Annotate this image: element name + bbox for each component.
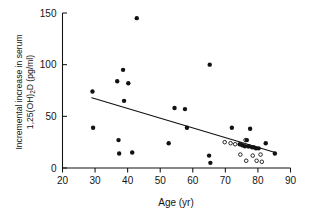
data-point-filled-16: [208, 161, 212, 165]
y-axis-title-prefix: 1,25(OH): [25, 94, 35, 129]
x-tick-label-70: 70: [220, 175, 232, 186]
data-point-filled-21: [245, 138, 249, 142]
data-point-filled-27: [256, 146, 260, 150]
y-tick-label-150: 150: [40, 8, 57, 19]
data-point-filled-28: [264, 141, 268, 145]
data-point-filled-9: [135, 16, 139, 20]
data-point-filled-20: [243, 144, 247, 148]
scatter-plot-figure: 2030405060708090 050100150 Age (yr) Incr…: [0, 0, 313, 217]
x-tick-label-40: 40: [122, 175, 134, 186]
data-point-filled-7: [126, 81, 130, 85]
x-axis-tick-labels: 2030405060708090: [57, 175, 297, 186]
data-point-filled-6: [122, 99, 126, 103]
data-point-filled-4: [117, 151, 121, 155]
data-point-filled-14: [208, 62, 212, 66]
x-tick-label-90: 90: [285, 175, 297, 186]
y-tick-label-50: 50: [45, 111, 57, 122]
y-tick-label-100: 100: [40, 59, 57, 70]
y-axis-title-line1: Incremental increase in serum: [14, 34, 24, 149]
data-point-filled-2: [115, 79, 119, 83]
data-point-open-1: [229, 141, 233, 145]
data-point-open-2: [233, 142, 237, 146]
x-axis-tickmarks: [63, 168, 291, 173]
data-point-filled-29: [273, 151, 277, 155]
data-point-filled-10: [166, 141, 170, 145]
data-point-filled-8: [130, 150, 134, 154]
data-point-open-8: [255, 159, 259, 163]
data-point-open-7: [251, 154, 255, 158]
data-point-filled-11: [172, 106, 176, 110]
data-point-open-5: [244, 159, 248, 163]
data-point-filled-1: [91, 125, 95, 129]
data-point-open-0: [223, 140, 227, 144]
plot-canvas: 2030405060708090 050100150 Age (yr) Incr…: [0, 0, 313, 217]
x-tick-label-80: 80: [252, 175, 264, 186]
x-tick-label-30: 30: [90, 175, 102, 186]
axis-frame: [63, 13, 291, 168]
data-point-filled-0: [90, 89, 94, 93]
data-point-filled-17: [230, 125, 234, 129]
y-axis-tick-labels: 050100150: [40, 8, 57, 174]
data-point-filled-13: [185, 125, 189, 129]
y-axis-title-suffix: D (pg/ml): [25, 55, 35, 90]
y-axis-title: Incremental increase in serum 1,25(OH)2D…: [14, 34, 36, 149]
x-axis-title: Age (yr): [158, 197, 194, 208]
data-point-filled-23: [248, 127, 252, 131]
y-axis-title-line2: 1,25(OH)2D (pg/ml): [25, 55, 36, 129]
x-tick-label-50: 50: [155, 175, 167, 186]
y-tick-label-0: 0: [51, 163, 57, 174]
data-point-filled-15: [207, 153, 211, 157]
data-point-filled-3: [116, 138, 120, 142]
x-tick-label-20: 20: [57, 175, 69, 186]
y-axis-tickmarks: [63, 13, 68, 168]
data-point-filled-12: [183, 107, 187, 111]
data-points-open-circles: [223, 138, 264, 163]
data-points-filled-circles: [90, 16, 277, 165]
data-point-open-10: [260, 160, 264, 164]
data-point-open-3: [239, 153, 243, 157]
data-point-open-9: [259, 153, 263, 157]
x-tick-label-60: 60: [187, 175, 199, 186]
data-point-filled-5: [121, 68, 125, 72]
